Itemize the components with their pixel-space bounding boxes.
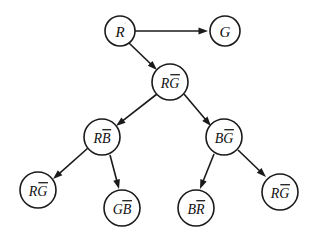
tree-diagram: RGRGRBBGRGGBBRRG [0, 0, 320, 239]
node-layer: RGRGRBBGRGGBBRRG [20, 16, 298, 226]
node-label: RG [270, 186, 290, 201]
edge-n4-to-n7 [110, 155, 120, 189]
node-n6[interactable]: RG [20, 172, 56, 208]
node-n1[interactable]: R [105, 16, 135, 46]
node-n7[interactable]: GB [104, 190, 140, 226]
edge-n3-to-n5 [184, 94, 211, 126]
node-label: GB [113, 202, 132, 217]
node-n8[interactable]: BR [178, 190, 214, 226]
edge-layer [53, 28, 266, 189]
node-label: RG [160, 76, 180, 91]
arrowhead [113, 179, 120, 189]
node-label: RG [28, 184, 48, 199]
edge-n5-to-n9 [238, 150, 266, 177]
diagram-canvas: RGRGRBBGRGGBBRRG [0, 0, 320, 239]
node-label: G [220, 24, 231, 40]
node-n4[interactable]: RB [84, 119, 120, 155]
node-n5[interactable]: BG [206, 119, 242, 155]
node-n2[interactable]: G [210, 16, 240, 46]
edge-n4-to-n6 [53, 148, 88, 179]
node-label: BG [215, 131, 234, 146]
node-label: RB [92, 131, 111, 146]
edge-n5-to-n8 [200, 154, 214, 189]
arrowhead [200, 179, 207, 189]
edge-n1-to-n3 [129, 43, 157, 70]
edge-n3-to-n4 [116, 94, 157, 126]
node-n9[interactable]: RG [262, 174, 298, 210]
edge-n1-to-n2 [135, 28, 208, 35]
node-label: R [114, 24, 124, 40]
node-label: BR [187, 202, 205, 217]
arrowhead [199, 28, 209, 35]
node-n3[interactable]: RG [152, 64, 188, 100]
